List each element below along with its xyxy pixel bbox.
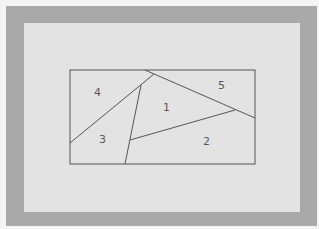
region-label-3: 3 — [99, 133, 106, 146]
region-label-1: 1 — [163, 101, 170, 114]
region-label-2: 2 — [203, 135, 210, 148]
dividing-lines — [70, 70, 255, 164]
region-labels: 4 5 1 3 2 — [94, 79, 225, 148]
divider-line-2 — [70, 74, 154, 143]
region-label-5: 5 — [218, 79, 225, 92]
partition-diagram: 4 5 1 3 2 — [0, 0, 319, 229]
region-label-4: 4 — [94, 86, 101, 99]
divider-line-1 — [145, 70, 255, 118]
divider-line-4 — [130, 110, 235, 140]
divider-line-3 — [125, 85, 141, 164]
outer-rectangle — [70, 70, 255, 164]
